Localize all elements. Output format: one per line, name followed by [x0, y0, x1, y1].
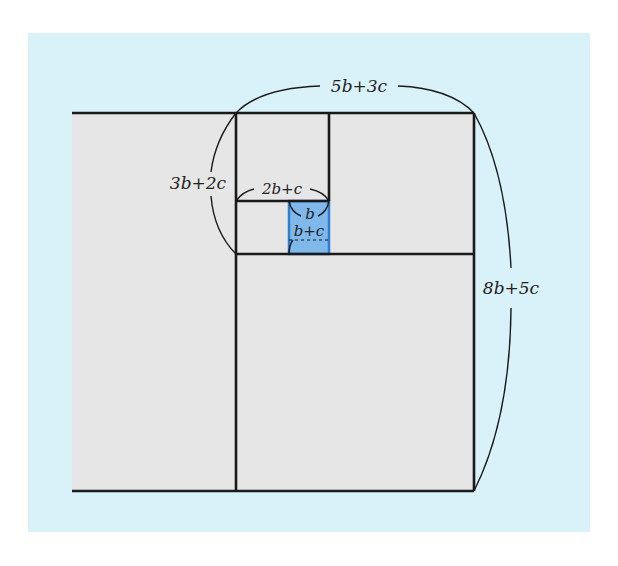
label-left-height: 3b+2c: [170, 173, 227, 193]
gray-region: [72, 113, 474, 491]
label-inner-width: 2b+c: [261, 180, 303, 198]
label-blue-top: b: [305, 205, 315, 223]
rectangle-decomposition-diagram: 5b+3c 8b+5c 3b+2c 2b+c b b+c: [0, 0, 618, 566]
label-top-width: 5b+3c: [331, 76, 388, 96]
label-right-height: 8b+5c: [483, 278, 540, 298]
label-blue-side: b+c: [294, 222, 325, 240]
